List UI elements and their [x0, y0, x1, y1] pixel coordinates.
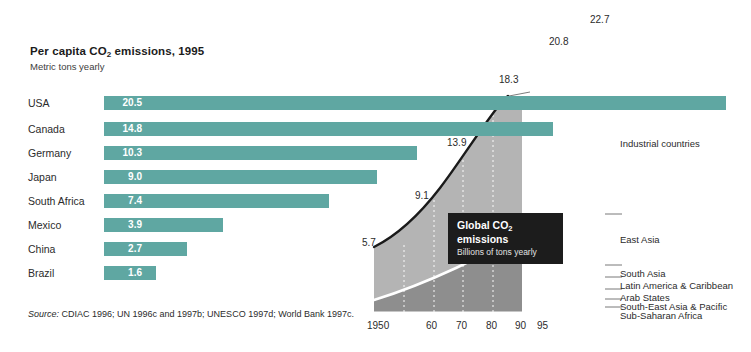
bar-row: China 2.7 [0, 242, 751, 256]
callout-title: Global CO2 [457, 219, 555, 233]
bar-label-japan: Japan [28, 170, 100, 184]
figure-root: 22.7 20.8 18.3 13.9 9.1 5.7 Industrial c… [0, 0, 751, 352]
bar-rect-canada [104, 122, 553, 136]
bar-row: Japan 9.0 [0, 170, 751, 184]
global-emissions-callout: Global CO2 emissions Billions of tons ye… [448, 213, 563, 264]
callout-title-text: Global CO [457, 219, 508, 231]
bar-label-china: China [28, 242, 100, 256]
curve-annotation-22-7: 22.7 [590, 14, 609, 25]
bar-label-germany: Germany [28, 146, 100, 160]
bar-value-south-africa: 7.4 [108, 194, 142, 208]
curve-annotation-18-3: 18.3 [499, 74, 518, 85]
bar-label-usa: USA [28, 96, 100, 110]
bar-row: USA 20.5 [0, 96, 751, 110]
bar-row: Brazil 1.6 [0, 266, 751, 280]
bar-row: Germany 10.3 [0, 146, 751, 160]
bar-value-mexico: 3.9 [108, 218, 142, 232]
x-axis-tick-60: 60 [426, 320, 437, 331]
bar-row: Canada 14.8 [0, 122, 751, 136]
bar-chart-subtitle: Metric tons yearly [30, 61, 104, 72]
bar-value-usa: 20.5 [108, 96, 142, 110]
source-label: Source: [28, 309, 59, 319]
bar-value-germany: 10.3 [108, 146, 142, 160]
bar-value-china: 2.7 [108, 242, 142, 256]
source-body: CDIAC 1996; UN 1996c and 1997b; UNESCO 1… [59, 309, 354, 319]
callout-subtitle: Billions of tons yearly [457, 247, 555, 257]
callout-title-subscript: 2 [508, 224, 512, 233]
curve-annotation-20-8: 20.8 [549, 36, 568, 47]
bar-title-text: Per capita CO [30, 45, 107, 57]
bar-value-canada: 14.8 [108, 122, 142, 136]
bar-rect-usa [104, 96, 726, 110]
bar-rect-japan [104, 170, 377, 184]
x-axis-tick-1950: 1950 [367, 320, 389, 331]
source-note: Source: CDIAC 1996; UN 1996c and 1997b; … [28, 309, 354, 319]
bar-label-south-africa: South Africa [28, 194, 100, 208]
bar-value-brazil: 1.6 [108, 266, 142, 280]
x-axis-tick-70: 70 [456, 320, 467, 331]
bar-row: South Africa 7.4 [0, 194, 751, 208]
bar-rect-germany [104, 146, 417, 160]
x-axis-tick-95: 95 [537, 320, 548, 331]
callout-title-line2: emissions [457, 233, 555, 245]
bar-label-mexico: Mexico [28, 218, 100, 232]
bar-title-subscript: 2 [107, 50, 112, 59]
bar-chart-title: Per capita CO2 emissions, 1995 [30, 45, 204, 57]
bar-value-japan: 9.0 [108, 170, 142, 184]
region-label-latin-america-caribbean: Latin America & Caribbean [620, 280, 733, 291]
bar-label-canada: Canada [28, 122, 100, 136]
bar-title-rest: emissions, 1995 [111, 45, 204, 57]
bar-label-brazil: Brazil [28, 266, 100, 280]
bar-row: Mexico 3.9 [0, 218, 751, 232]
x-axis-tick-90: 90 [515, 320, 526, 331]
x-axis-tick-80: 80 [486, 320, 497, 331]
region-label-sub-saharan-africa: Sub-Saharan Africa [620, 310, 702, 321]
